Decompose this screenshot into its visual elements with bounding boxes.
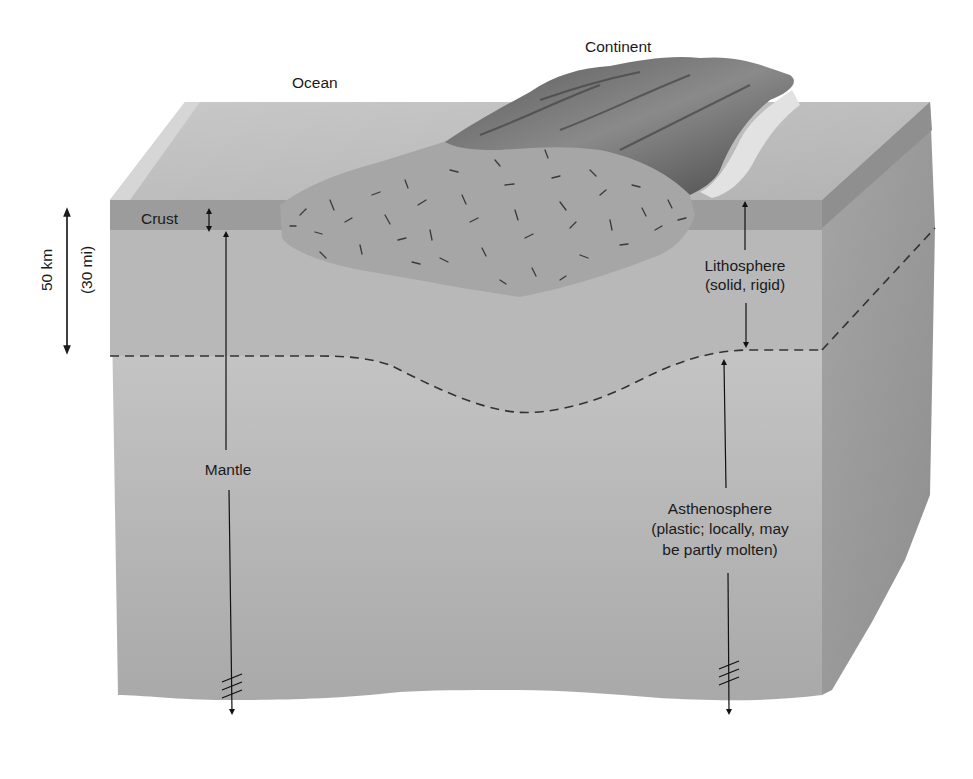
crust-label: Crust (141, 210, 179, 227)
asthenosphere-sublabel-2: be partly molten) (662, 541, 777, 558)
scale-bar-imperial: (30 mi) (78, 246, 95, 294)
asthenosphere-sublabel-1: (plastic; locally, may (651, 520, 789, 537)
continent-label: Continent (585, 38, 652, 55)
ocean-label: Ocean (292, 74, 338, 91)
lithosphere-sublabel: (solid, rigid) (705, 276, 785, 293)
lithosphere-label: Lithosphere (704, 257, 785, 274)
scale-bar-metric: 50 km (38, 249, 55, 291)
mantle-label: Mantle (205, 461, 252, 478)
earth-layers-diagram: 50 km (30 mi) Crust Mantle Lithosphere (… (0, 0, 973, 779)
asthenosphere-label: Asthenosphere (668, 500, 772, 517)
